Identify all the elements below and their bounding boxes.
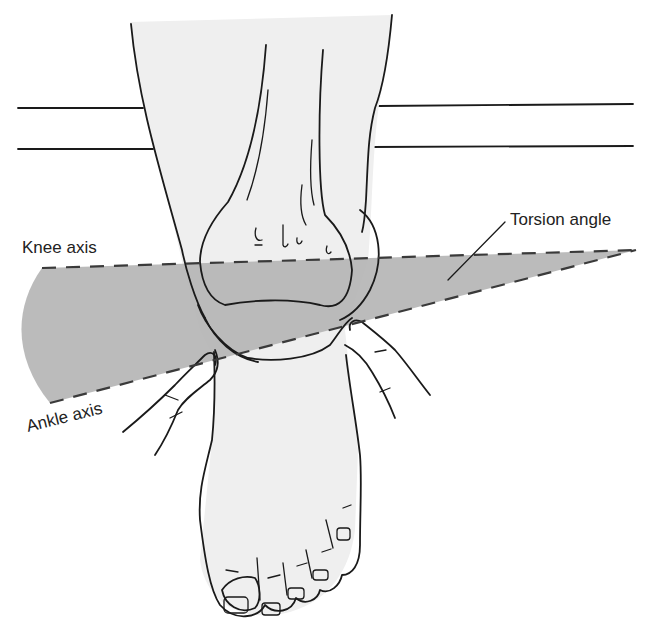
ankle-axis-label: Ankle axis <box>24 399 104 436</box>
torsion-angle-label: Torsion angle <box>510 210 611 229</box>
knee-axis-label: Knee axis <box>22 238 97 257</box>
torsion-angle-diagram: Knee axis Ankle axis Torsion angle <box>0 0 649 634</box>
